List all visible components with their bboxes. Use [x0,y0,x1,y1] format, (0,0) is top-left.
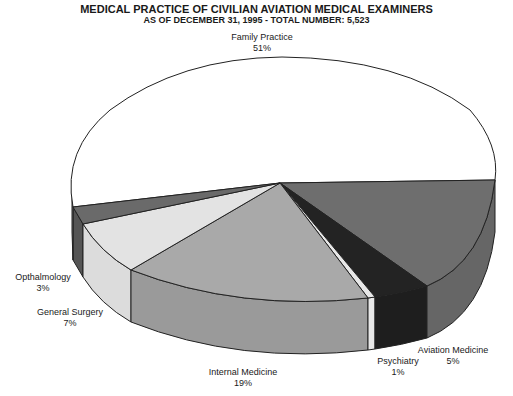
label-pct: 7% [30,318,110,329]
label-name: Aviation Medicine [408,345,498,356]
label-opthalmology: Opthalmology 3% [8,272,78,294]
label-pct: 5% [408,356,498,367]
label-family-practice: Family Practice 51% [212,32,312,54]
label-pct: 51% [212,43,312,54]
label-aviation-medicine: Aviation Medicine 5% [408,345,498,367]
label-name: Family Practice [212,32,312,43]
pie-chart [0,0,513,396]
label-pct: 1% [368,367,428,378]
label-pct: 3% [8,283,78,294]
label-internal-medicine: Internal Medicine 19% [198,367,288,389]
label-name: Internal Medicine [198,367,288,378]
wall-psychiatry [368,297,375,350]
label-name: Opthalmology [8,272,78,283]
label-name: General Surgery [30,307,110,318]
label-general-surgery: General Surgery 7% [30,307,110,329]
label-pct: 19% [198,378,288,389]
